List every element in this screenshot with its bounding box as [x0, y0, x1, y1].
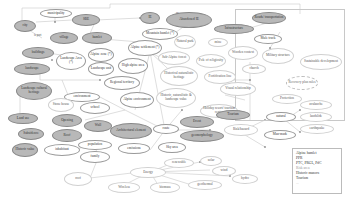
- node-roof-lower[interactable]: roof: [64, 172, 92, 186]
- node-historical-naturalistic-heritage[interactable]: Historical naturalistic heritage: [160, 66, 198, 86]
- node-family[interactable]: family: [80, 151, 110, 163]
- node-geomorphology[interactable]: geomorphology: [180, 130, 224, 142]
- node-landscape[interactable]: landscape: [14, 63, 50, 75]
- concept-diagram: is part IE municipality city SBE IE Aban…: [0, 0, 345, 203]
- node-landslide[interactable]: landslide: [300, 112, 332, 122]
- node-protection[interactable]: Protection: [272, 94, 302, 104]
- node-military-structure[interactable]: Military structure: [262, 48, 294, 64]
- node-landscape-cultural-heritage[interactable]: Landscape cultural heritage: [16, 82, 52, 100]
- node-solar[interactable]: solar: [200, 156, 222, 166]
- node-roof[interactable]: Roof: [52, 129, 82, 142]
- node-sbe[interactable]: SBE: [72, 14, 100, 26]
- node-buildings[interactable]: buildings: [22, 47, 54, 59]
- node-inhabitant[interactable]: inhabitant: [44, 144, 80, 156]
- legend-box: Alpine hamlet PPR PTC, PRGL, PdC Risk ar…: [292, 148, 342, 194]
- node-ie[interactable]: IE: [140, 12, 160, 24]
- node-alpine-environment[interactable]: Alpine environment: [120, 92, 154, 108]
- node-sustainable-development[interactable]: Sustainable development: [300, 54, 342, 70]
- node-high-alpine-area[interactable]: High alpine area: [118, 58, 148, 74]
- node-school[interactable]: school: [80, 102, 110, 114]
- node-tourism[interactable]: Tourism: [216, 110, 250, 120]
- node-sky-area[interactable]: Sky area: [158, 142, 186, 153]
- node-landscape-unit[interactable]: Landscape unit: [88, 62, 114, 76]
- node-recovery-plan-rules[interactable]: Recovery plan rules: [286, 76, 318, 90]
- node-energy[interactable]: Energy: [130, 167, 166, 178]
- node-mine[interactable]: mine: [208, 38, 228, 47]
- node-opening[interactable]: Opening: [52, 114, 82, 127]
- node-event[interactable]: Event: [180, 116, 214, 128]
- node-wireless[interactable]: Wireless: [108, 182, 140, 193]
- node-regional-territory[interactable]: Regional territory: [104, 76, 140, 90]
- node-population[interactable]: population: [78, 140, 112, 150]
- node-hydro[interactable]: hydro: [232, 174, 258, 184]
- node-stone-house[interactable]: Stone house: [48, 98, 74, 112]
- node-historic-naturalistic-landscape-value[interactable]: Historic, naturalistic & landscape value: [156, 88, 196, 108]
- node-municipality[interactable]: municipality: [40, 9, 72, 18]
- node-natural-park[interactable]: Natural park: [174, 35, 196, 49]
- node-earthquake[interactable]: earthquake: [300, 124, 334, 134]
- node-wooden-context[interactable]: Wooden context: [228, 46, 258, 60]
- node-alpine-zone[interactable]: Alpine zone (*): [88, 48, 114, 62]
- node-avalanche[interactable]: avalanche: [300, 100, 332, 110]
- node-mule-track[interactable]: Mule track: [254, 34, 282, 44]
- node-hamlet[interactable]: hamlet: [82, 32, 112, 44]
- node-wind[interactable]: wind: [212, 166, 236, 176]
- node-alpine-settlement[interactable]: Alpine settlement (*): [128, 40, 162, 56]
- node-landscape-area[interactable]: Landscape Area (*): [56, 52, 86, 70]
- node-sub-alpine-forest[interactable]: Sub-Alpine forest: [158, 51, 190, 65]
- node-geothermal[interactable]: geothermal: [188, 180, 222, 190]
- node-natural[interactable]: natural: [266, 112, 296, 122]
- node-man-made[interactable]: Man-made: [264, 130, 296, 140]
- node-risk-hazard[interactable]: Risk/hazard: [224, 124, 258, 136]
- node-wall[interactable]: Wall: [84, 120, 112, 132]
- node-biomass[interactable]: biomass: [150, 182, 180, 193]
- node-city[interactable]: city: [14, 20, 36, 32]
- node-subsidence[interactable]: Subsidence: [18, 128, 44, 140]
- node-architectural-element[interactable]: Architectural element: [110, 123, 152, 139]
- node-infrastructure[interactable]: Infrastructure: [214, 24, 254, 34]
- node-emissions[interactable]: emissions: [118, 143, 150, 154]
- node-abandoned-ie[interactable]: Abandoned IE: [166, 12, 212, 28]
- node-pole-of-religiosity[interactable]: Pole of religiosity: [196, 54, 226, 68]
- node-mountain-hamlet[interactable]: Mountain hamlet (*): [142, 28, 178, 40]
- node-visual-relationship[interactable]: Visual relationship: [220, 82, 256, 96]
- node-village[interactable]: village: [50, 32, 78, 44]
- node-roads-transportation[interactable]: Roads/ transportation: [252, 12, 286, 24]
- node-historic-value[interactable]: Historic value: [12, 143, 38, 157]
- node-renewable[interactable]: renewable: [164, 158, 194, 168]
- node-church[interactable]: church: [242, 64, 266, 74]
- edge-label-is-part: is part: [34, 33, 42, 37]
- legend-item: ...: [296, 181, 338, 186]
- node-land-use[interactable]: Land use: [8, 113, 38, 124]
- node-route[interactable]: route: [153, 124, 179, 134]
